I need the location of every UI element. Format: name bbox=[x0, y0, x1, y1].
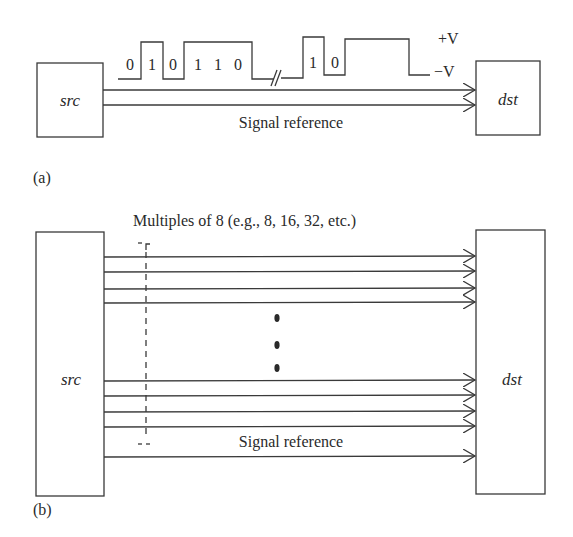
ellipsis-dots-icon bbox=[274, 314, 279, 372]
voltage-low-label: −V bbox=[434, 63, 455, 80]
bit-label: 0 bbox=[126, 56, 134, 73]
bus-width-label: Multiples of 8 (e.g., 8, 16, 32, etc.) bbox=[133, 212, 356, 230]
dst-label-b: dst bbox=[502, 370, 523, 389]
panel-a-label: (a) bbox=[33, 169, 51, 187]
data-line bbox=[104, 426, 475, 427]
bit-labels: 0 1 0 1 1 0 1 0 bbox=[126, 54, 339, 73]
dst-label-a: dst bbox=[498, 90, 519, 109]
signal-reference-label-b: Signal reference bbox=[239, 433, 343, 451]
bit-label: 0 bbox=[234, 56, 242, 73]
reference-line-b bbox=[104, 456, 475, 457]
data-line bbox=[104, 256, 475, 257]
src-box-b: src bbox=[36, 232, 104, 496]
bit-label: 1 bbox=[194, 56, 202, 73]
bit-label: 0 bbox=[169, 56, 177, 73]
bit-label: 1 bbox=[214, 56, 222, 73]
panel-b-label: (b) bbox=[33, 501, 52, 519]
signal-reference-label-a: Signal reference bbox=[239, 114, 343, 132]
bit-label: 0 bbox=[331, 54, 339, 71]
src-box-a: src bbox=[37, 63, 103, 137]
data-line bbox=[104, 380, 475, 381]
src-label-a: src bbox=[60, 91, 81, 110]
panel-b: src dst Multiples of 8 (e.g., 8, 16, 32,… bbox=[33, 212, 545, 519]
data-lines-bottom bbox=[104, 380, 475, 427]
data-line bbox=[104, 302, 475, 303]
data-line bbox=[104, 395, 475, 396]
data-lines-top bbox=[104, 256, 475, 303]
voltage-high-label: +V bbox=[438, 30, 459, 47]
src-label-b: src bbox=[61, 370, 82, 389]
dst-box-a: dst bbox=[476, 61, 540, 135]
panel-a: src dst Signal reference 0 1 0 1 1 0 1 0… bbox=[33, 30, 540, 187]
data-line bbox=[104, 288, 475, 289]
bit-label: 1 bbox=[309, 54, 317, 71]
bit-label: 1 bbox=[148, 56, 156, 73]
data-line bbox=[104, 271, 475, 272]
digital-waveform bbox=[118, 37, 430, 79]
data-line bbox=[104, 411, 475, 412]
dst-box-b: dst bbox=[476, 230, 545, 494]
bus-bracket bbox=[138, 243, 150, 444]
diagram-canvas: src dst Signal reference 0 1 0 1 1 0 1 0… bbox=[0, 0, 573, 537]
